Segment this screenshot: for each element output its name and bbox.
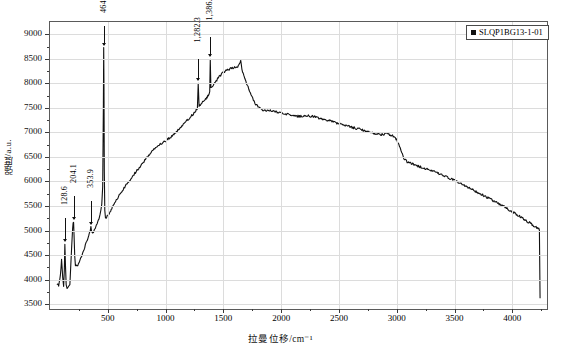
y-axis-tick [45,34,49,35]
spectrum-line [57,48,540,299]
y-axis-tick-label: 6500 [0,152,42,161]
gridline-horizontal [50,280,547,281]
peak-leader-line [198,59,199,80]
x-axis-minor-tick [137,309,138,311]
peak-label: 128.6 [61,186,69,205]
gridline-vertical [108,22,109,309]
gridline-horizontal [50,132,547,133]
gridline-vertical [455,22,456,309]
gridline-horizontal [50,255,547,256]
gridline-horizontal [50,206,547,207]
gridline-horizontal [50,304,547,305]
y-axis-tick [45,108,49,109]
y-axis-tick-label: 5500 [0,201,42,210]
peak-label: 1,282.3 [194,17,202,42]
peak-label: 204.1 [70,164,78,183]
y-axis-tick-label: 8000 [0,78,42,87]
y-axis-tick [45,255,49,256]
x-axis-minor-tick [194,309,195,311]
x-axis-tick-label: 3500 [435,314,475,323]
peak-arrow-icon [63,239,67,242]
y-axis-tick [45,280,49,281]
spectrum-curve [50,22,547,309]
legend[interactable]: SLQP1BG13-1-01 [466,25,549,40]
gridline-horizontal [50,231,547,232]
y-axis-tick-label: 7000 [0,127,42,136]
y-axis-minor-tick [47,243,49,244]
x-axis-minor-tick [483,309,484,311]
gridline-vertical [512,22,513,309]
x-axis-tick-label: 4000 [492,314,532,323]
x-axis-title: 拉曼位移/cm⁻¹ [0,331,561,345]
y-axis-minor-tick [47,194,49,195]
x-axis-tick-label: 1500 [203,314,243,323]
gridline-vertical [166,22,167,309]
y-axis-tick [45,132,49,133]
gridline-vertical [397,22,398,309]
y-axis-minor-tick [47,292,49,293]
peak-arrow-icon [102,43,106,46]
peak-arrow-icon [208,54,212,57]
legend-label: SLQP1BG13-1-01 [479,28,543,37]
gridline-horizontal [50,83,547,84]
x-axis-tick-label: 1000 [146,314,186,323]
y-axis-tick-label: 3500 [0,299,42,308]
gridline-vertical [339,22,340,309]
y-axis-minor-tick [47,120,49,121]
y-axis-tick-label: 4500 [0,250,42,259]
y-axis-tick [45,304,49,305]
y-axis-tick-label: 9000 [0,29,42,38]
y-axis-minor-tick [47,169,49,170]
x-axis-minor-tick [79,309,80,311]
x-axis-minor-tick [310,309,311,311]
gridline-horizontal [50,108,547,109]
gridline-horizontal [50,181,547,182]
y-axis-minor-tick [47,96,49,97]
y-axis-tick-label: 6000 [0,176,42,185]
x-axis-minor-tick [541,309,542,311]
peak-arrow-icon [89,222,93,225]
peak-label: 1,386.6 [206,0,214,20]
square-marker-icon [471,30,476,35]
x-axis-minor-tick [426,309,427,311]
gridline-horizontal [50,59,547,60]
y-axis-minor-tick [47,267,49,268]
y-axis-tick-label: 5000 [0,226,42,235]
y-axis-tick [45,206,49,207]
y-axis-minor-tick [47,145,49,146]
y-axis-tick [45,59,49,60]
gridline-horizontal [50,157,547,158]
x-axis-minor-tick [252,309,253,311]
peak-label: 464.6 [100,0,108,13]
y-axis-tick [45,181,49,182]
peak-leader-line [91,201,92,224]
x-axis-tick-label: 500 [88,314,128,323]
y-axis-tick-label: 4000 [0,275,42,284]
x-axis-tick-label: 2000 [261,314,301,323]
gridline-vertical [281,22,282,309]
y-axis-tick [45,83,49,84]
plot-area [49,21,548,310]
peak-label: 353.9 [87,169,95,188]
y-axis-tick [45,157,49,158]
y-axis-tick-label: 7500 [0,103,42,112]
peak-arrow-icon [72,217,76,220]
y-axis-minor-tick [47,218,49,219]
y-axis-minor-tick [47,71,49,72]
y-axis-minor-tick [47,47,49,48]
gridline-vertical [223,22,224,309]
y-axis-tick [45,231,49,232]
x-axis-tick-label: 3000 [377,314,417,323]
x-axis-minor-tick [368,309,369,311]
y-axis-tick-label: 8500 [0,54,42,63]
peak-leader-line [74,196,75,219]
x-axis-tick-label: 2500 [319,314,359,323]
peak-leader-line [65,218,66,241]
peak-arrow-icon [196,78,200,81]
raman-spectrum-chart: 强度/a.u. 35004000450050005500600065007000… [0,0,561,355]
